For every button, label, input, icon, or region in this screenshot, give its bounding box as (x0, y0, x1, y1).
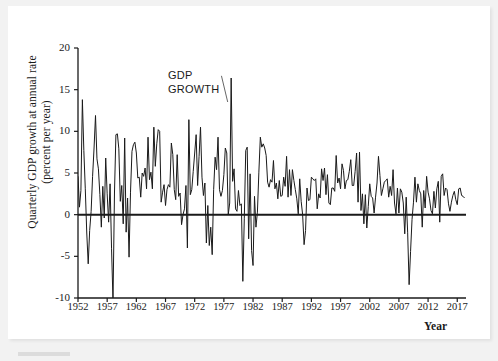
series-group (78, 78, 465, 301)
y-tick-15: 15 (44, 83, 70, 95)
y-tick-10: 10 (44, 124, 70, 136)
annotation-line1: GDP (168, 68, 219, 82)
y-axis-title-line2: (percent per year) (39, 27, 53, 257)
y-axis-title-line1: Quarterly GDP growth at annual rate (25, 27, 39, 257)
annotation-leader-line (221, 76, 227, 102)
y-tick-20: 20 (44, 41, 70, 53)
page-edge-mark (18, 352, 70, 356)
y-tick-0: 0 (44, 208, 70, 220)
annotation-line2: GROWTH (168, 82, 219, 96)
y-axis-title: Quarterly GDP growth at annual rate (per… (25, 27, 53, 257)
gdp-growth-chart: Quarterly GDP growth at annual rate (per… (0, 0, 498, 361)
x-tick-2017: 2017 (437, 301, 477, 312)
series-annotation: GDP GROWTH (168, 68, 219, 96)
figure-page: Quarterly GDP growth at annual rate (per… (0, 0, 498, 361)
axes-group (74, 48, 466, 302)
x-axis-title: Year (424, 320, 447, 332)
y-tick--5: -5 (44, 249, 70, 261)
y-tick-5: 5 (44, 166, 70, 178)
